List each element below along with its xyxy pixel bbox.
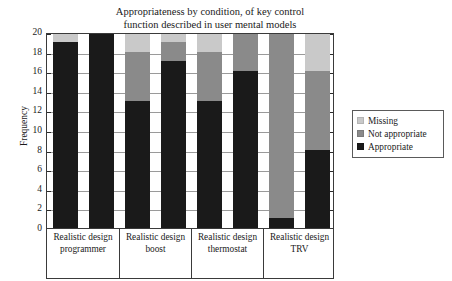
y-tick-label: 14 <box>16 87 42 97</box>
legend-label: Appropriate <box>368 142 413 152</box>
legend-swatch-icon <box>357 130 364 137</box>
bar-segment-not-appropriate <box>197 52 222 101</box>
x-axis-group-cell: Realistic design boost <box>119 229 191 278</box>
bar-segment-appropriate <box>233 71 258 228</box>
x-axis-group-label: Realistic design thermostat <box>198 232 257 255</box>
stacked-bar <box>305 33 330 228</box>
y-tick-label: 18 <box>16 48 42 58</box>
y-tick-label: 2 <box>16 205 42 215</box>
y-tick-label: 4 <box>16 185 42 195</box>
bar-segment-not-appropriate <box>269 33 294 218</box>
x-axis-group-labels: Realistic design programmerRealistic des… <box>46 229 334 279</box>
y-tick-label: 0 <box>16 224 42 234</box>
y-tick-label: 10 <box>16 126 42 136</box>
bar-segment-not-appropriate <box>125 52 150 101</box>
legend-label: Not appropriate <box>368 129 427 139</box>
x-axis-group-cell: Realistic design TRV <box>263 229 335 278</box>
x-axis-group-cell: Realistic design thermostat <box>191 229 263 278</box>
chart-title: Appropriateness by condition, of key con… <box>60 6 360 31</box>
y-tick-label: 8 <box>16 146 42 156</box>
bar-segment-appropriate <box>305 150 330 228</box>
y-axis-tick-labels: 02468101214161820 <box>16 33 42 229</box>
bar-segment-not-appropriate <box>305 71 330 149</box>
stacked-bar <box>161 33 186 228</box>
x-axis-group-label: Realistic design boost <box>126 232 185 255</box>
plot-area <box>46 33 334 229</box>
bar-segment-missing <box>161 33 186 42</box>
bar-segment-appropriate <box>197 101 222 228</box>
y-tick-label: 6 <box>16 165 42 175</box>
bar-segment-missing <box>125 33 150 52</box>
bar-segment-appropriate <box>269 218 294 228</box>
legend-label: Missing <box>368 116 398 126</box>
bar-segment-appropriate <box>125 101 150 228</box>
stacked-bar <box>53 33 78 228</box>
stacked-bar <box>125 33 150 228</box>
x-axis-group-label: Realistic design TRV <box>270 232 329 255</box>
bar-segment-not-appropriate <box>233 33 258 71</box>
x-axis-group-label: Realistic design programmer <box>53 232 112 255</box>
stacked-bar <box>89 33 114 228</box>
legend-item: Missing <box>357 114 439 127</box>
bar-segment-missing <box>53 33 78 42</box>
stacked-bar <box>233 33 258 228</box>
chart-figure: Appropriateness by condition, of key con… <box>0 0 452 281</box>
x-axis-group-cell: Realistic design programmer <box>47 229 119 278</box>
bar-segment-appropriate <box>53 42 78 228</box>
y-tick-label: 12 <box>16 107 42 117</box>
legend-swatch-icon <box>357 143 364 150</box>
chart-legend: MissingNot appropriateAppropriate <box>352 110 444 158</box>
bar-segment-missing <box>305 33 330 71</box>
bar-segment-appropriate <box>161 61 186 228</box>
bar-segment-missing <box>197 33 222 52</box>
legend-swatch-icon <box>357 117 364 124</box>
y-tick-label: 16 <box>16 67 42 77</box>
bar-segment-appropriate <box>89 33 114 228</box>
bars-layer <box>47 34 333 228</box>
legend-item: Not appropriate <box>357 127 439 140</box>
stacked-bar <box>269 33 294 228</box>
y-tick-label: 20 <box>16 28 42 38</box>
stacked-bar <box>197 33 222 228</box>
bar-segment-not-appropriate <box>161 42 186 62</box>
legend-item: Appropriate <box>357 140 439 153</box>
